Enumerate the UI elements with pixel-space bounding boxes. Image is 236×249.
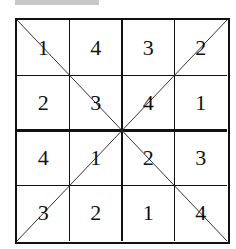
grid-cell-r2c1: 2 — [17, 75, 70, 130]
grid-cell-r3c1: 4 — [17, 131, 70, 186]
grid-cell-r1c3: 3 — [122, 20, 175, 75]
grid-cell-r2c2: 3 — [70, 75, 123, 130]
grid-cell-r2c4: 1 — [175, 75, 228, 130]
top-gray-bar — [15, 0, 99, 5]
grid-cell-r4c4: 4 — [175, 186, 228, 241]
grid-cell-r1c4: 2 — [175, 20, 228, 75]
grid-cell-r3c3: 2 — [122, 131, 175, 186]
latin-square-grid: 1432234141233214 — [15, 18, 230, 244]
grid-cell-r2c3: 4 — [122, 75, 175, 130]
grid-cell-r1c1: 1 — [17, 20, 70, 75]
grid-cell-r4c3: 1 — [122, 186, 175, 241]
grid-cell-r4c2: 2 — [70, 186, 123, 241]
grid-cell-r1c2: 4 — [70, 20, 123, 75]
grid-cell-r3c2: 1 — [70, 131, 123, 186]
grid-cell-r4c1: 3 — [17, 186, 70, 241]
grid-cell-r3c4: 3 — [175, 131, 228, 186]
